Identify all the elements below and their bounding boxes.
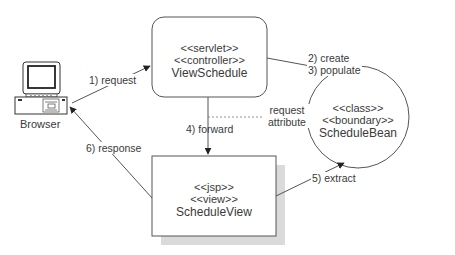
edge-label-forward: 4) forward: [185, 123, 234, 135]
controller-node: <<servlet>> <<controller>> ViewSchedule: [152, 42, 267, 80]
edge-label-create: 2) create: [308, 52, 361, 64]
edge-label-request-attribute: request attribute: [264, 104, 310, 128]
controller-name: ViewSchedule: [152, 66, 267, 80]
view-node: <<jsp>> <<view>> ScheduleView: [152, 181, 276, 219]
edge-label-request: 1) request: [88, 74, 137, 86]
edge-label-extract: 5) extract: [311, 172, 357, 184]
edge-label-response: 6) response: [85, 142, 142, 154]
bean-name: ScheduleBean: [310, 126, 406, 140]
bean-node: <<class>> <<boundary>> ScheduleBean: [310, 102, 406, 140]
edge-label-populate: 3) populate: [308, 64, 361, 76]
view-stereotype-jsp: <<jsp>>: [152, 181, 276, 193]
edge-label-create-populate: 2) create 3) populate: [307, 52, 362, 76]
view-name: ScheduleView: [152, 205, 276, 219]
controller-stereotype-servlet: <<servlet>>: [152, 42, 267, 54]
edge-label-attribute-word: attribute: [265, 116, 309, 128]
browser-label: Browser: [19, 118, 61, 130]
view-stereotype-view: <<view>>: [152, 193, 276, 205]
desktop-computer-icon: [15, 62, 67, 114]
bean-stereotype-class: <<class>>: [310, 102, 406, 114]
controller-stereotype-controller: <<controller>>: [152, 54, 267, 66]
edge-label-request-word: request: [265, 104, 309, 116]
bean-stereotype-boundary: <<boundary>>: [310, 114, 406, 126]
